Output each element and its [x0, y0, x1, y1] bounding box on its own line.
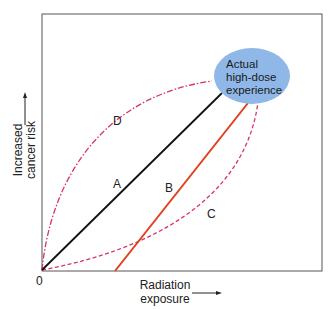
- curve-b-label: B: [165, 181, 173, 195]
- annotation-line-3: experience: [226, 84, 282, 97]
- chart-svg: [0, 0, 332, 309]
- y-axis-label: Increased cancer risk: [12, 110, 38, 190]
- x-axis-arrow-icon: [216, 291, 222, 295]
- curve-d-label: D: [113, 114, 122, 128]
- curve-c: [42, 102, 258, 270]
- annotation-line-1: Actual: [226, 58, 282, 71]
- x-axis-label-line-2: exposure: [136, 292, 194, 306]
- origin-label: 0: [36, 274, 43, 288]
- x-axis-label: Radiation exposure: [136, 278, 194, 306]
- y-axis-label-line-2: cancer risk: [25, 110, 38, 190]
- plot-frame: [42, 14, 322, 271]
- line-b: [115, 103, 248, 271]
- high-dose-annotation: Actual high-dose experience: [226, 58, 282, 97]
- curve-a-label: A: [113, 177, 121, 191]
- line-a: [42, 93, 222, 270]
- annotation-line-2: high-dose: [226, 71, 282, 84]
- curve-d: [42, 81, 212, 270]
- x-axis-label-line-1: Radiation: [136, 278, 194, 292]
- curve-c-label: C: [207, 207, 216, 221]
- y-axis-arrow-icon: [23, 92, 27, 98]
